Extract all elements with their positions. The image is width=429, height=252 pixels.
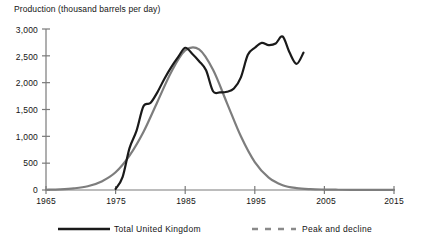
legend-label-total-united-kingdom: Total United Kingdom <box>114 224 201 234</box>
series-line-total-united-kingdom <box>116 36 304 189</box>
legend-label-peak-and-decline: Peak and decline <box>302 224 372 234</box>
series-line-peak-and-decline <box>46 47 394 190</box>
axis-lines <box>46 29 394 190</box>
production-chart: Production (thousand barrels per day) 3,… <box>0 0 429 252</box>
plot-area <box>0 0 429 252</box>
